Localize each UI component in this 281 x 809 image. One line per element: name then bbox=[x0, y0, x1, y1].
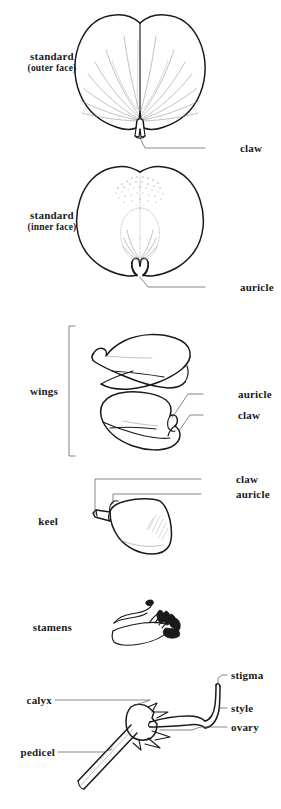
leader-calyx bbox=[55, 700, 150, 706]
leader-ovary bbox=[160, 727, 227, 730]
label-stigma: stigma bbox=[231, 669, 263, 681]
standard-inner-title-line1: standard bbox=[28, 209, 77, 221]
label-auricle-keel: auricle bbox=[236, 488, 270, 500]
standard-inner-title-line2: (inner face) bbox=[28, 221, 77, 233]
keel-drawing bbox=[93, 499, 171, 554]
leader-claw-standard bbox=[140, 138, 205, 148]
leader-claw-wings bbox=[179, 415, 203, 431]
label-calyx: calyx bbox=[27, 694, 52, 706]
leader-pedicel bbox=[58, 749, 112, 752]
pistil-drawing bbox=[78, 684, 220, 789]
section-title-keel: keel bbox=[38, 515, 58, 527]
leader-stigma bbox=[218, 675, 227, 684]
wings-bracket bbox=[69, 326, 75, 456]
section-title-standard-inner: standard (inner face) bbox=[28, 209, 77, 233]
label-ovary: ovary bbox=[231, 721, 259, 733]
stipple-texture bbox=[116, 177, 164, 211]
label-claw-keel: claw bbox=[236, 473, 258, 485]
label-style: style bbox=[231, 702, 253, 714]
leader-auricle-standard bbox=[140, 277, 205, 287]
section-title-wings: wings bbox=[30, 385, 58, 397]
stamens-drawing bbox=[112, 600, 180, 645]
section-title-standard-outer: standard (outer face) bbox=[28, 50, 77, 74]
section-title-stamens: stamens bbox=[33, 621, 72, 633]
standard-outer-title-line1: standard bbox=[28, 50, 77, 62]
label-claw-wings: claw bbox=[238, 409, 260, 421]
label-auricle-standard: auricle bbox=[240, 281, 274, 293]
label-pedicel: pedicel bbox=[21, 746, 55, 758]
wing-petal-lower-drawing bbox=[101, 392, 180, 450]
label-claw-standard: claw bbox=[240, 142, 262, 154]
leader-auricle-wings bbox=[172, 394, 203, 418]
standard-outer-face-drawing bbox=[75, 15, 205, 138]
wing-petal-upper-drawing bbox=[92, 335, 190, 390]
standard-outer-title-line2: (outer face) bbox=[28, 62, 77, 74]
botanical-figure: .o { fill:none; stroke:#1a1a1a; stroke-w… bbox=[0, 0, 281, 809]
figure-artwork: .o { fill:none; stroke:#1a1a1a; stroke-w… bbox=[0, 0, 281, 809]
label-auricle-wings: auricle bbox=[238, 388, 272, 400]
standard-inner-face-drawing bbox=[77, 167, 204, 276]
